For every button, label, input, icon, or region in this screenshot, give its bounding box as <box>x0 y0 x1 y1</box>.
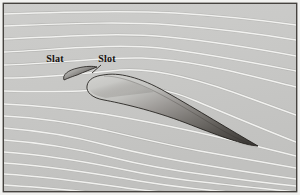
figure-container: Slat Slot <box>0 0 300 195</box>
airfoil-streamline-diagram: Slat Slot <box>0 0 300 195</box>
grain-overlay <box>4 4 296 191</box>
